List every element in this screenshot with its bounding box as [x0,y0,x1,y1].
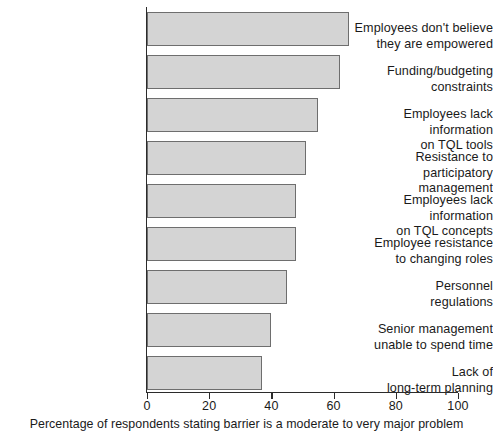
bar [147,184,296,218]
bar [147,141,306,175]
x-tick-label: 60 [326,399,340,413]
x-tick-label: 0 [143,399,150,413]
bar-chart-figure: Employees don't believe they are empower… [0,0,493,436]
bar [147,55,340,89]
x-tick-label: 20 [202,399,216,413]
x-tick-label: 100 [447,399,468,413]
bar [147,356,262,390]
plot-area [147,7,458,393]
bar [147,12,349,46]
bar [147,313,271,347]
x-tick-label: 40 [264,399,278,413]
x-axis-caption: Percentage of respondents stating barrie… [0,417,493,431]
x-tick-label: 80 [389,399,403,413]
bar [147,98,318,132]
bar [147,270,287,304]
bar [147,227,296,261]
